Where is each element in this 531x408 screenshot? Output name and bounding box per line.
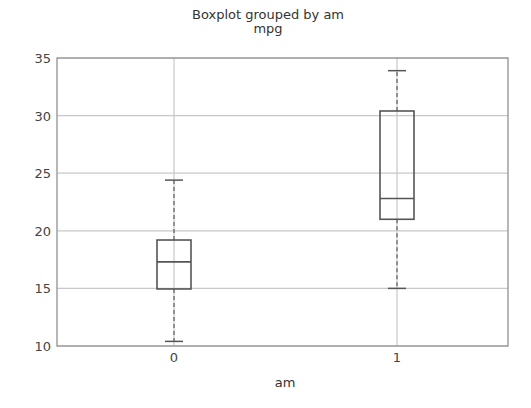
- grid-lines: [57, 58, 508, 346]
- chart-title: Boxplot grouped by am: [192, 7, 344, 22]
- y-tick-label: 20: [34, 224, 51, 239]
- y-tick-label: 15: [34, 281, 51, 296]
- y-tick-label: 10: [34, 339, 51, 354]
- plot-frame: [57, 58, 508, 346]
- y-tick-label: 30: [34, 109, 51, 124]
- boxplot-chart: Boxplot grouped by am mpg 101520253035 0…: [0, 0, 531, 408]
- x-axis: 01: [170, 350, 401, 365]
- x-tick-label: 1: [393, 350, 401, 365]
- y-axis: 101520253035: [34, 51, 51, 354]
- x-axis-label: am: [275, 375, 296, 390]
- y-tick-label: 25: [34, 166, 51, 181]
- boxes: [157, 71, 414, 342]
- x-tick-label: 0: [170, 350, 178, 365]
- y-tick-label: 35: [34, 51, 51, 66]
- chart-subtitle: mpg: [253, 21, 282, 36]
